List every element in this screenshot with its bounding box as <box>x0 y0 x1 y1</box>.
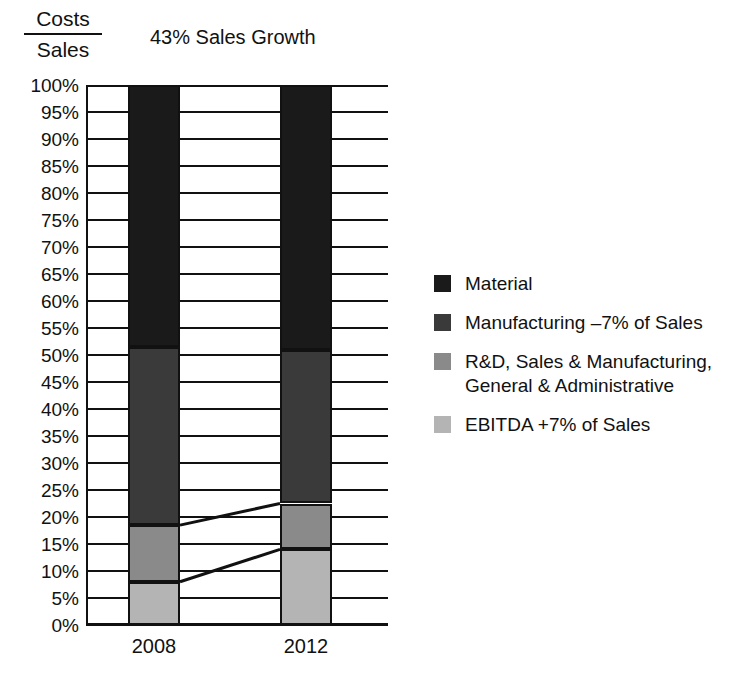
legend: MaterialManufacturing –7% of SalesR&D, S… <box>434 272 730 452</box>
plot-area: 100%95%90%85%80%75%70%65%60%55%50%45%40%… <box>86 85 388 625</box>
y-axis-tick-label: 85% <box>41 157 79 176</box>
legend-swatch-material <box>434 275 451 292</box>
y-axis-tick-label: 50% <box>41 346 79 365</box>
y-axis-tick-label: 70% <box>41 238 79 257</box>
bar-segment-ebitda <box>128 582 180 625</box>
y-axis-tick-label: 30% <box>41 454 79 473</box>
bar-segment-material <box>128 85 180 347</box>
legend-row: Manufacturing –7% of Sales <box>434 311 730 335</box>
y-axis-tick-label: 55% <box>41 319 79 338</box>
x-axis-label-2008: 2008 <box>128 635 180 658</box>
bar-2008: 2008 <box>128 85 180 625</box>
y-axis-tick-label: 60% <box>41 292 79 311</box>
y-axis-tick-label: 40% <box>41 400 79 419</box>
bar-segment-manufacturing <box>128 347 180 525</box>
legend-row: R&D, Sales & Manufacturing, General & Ad… <box>434 350 730 398</box>
stacked-bar-chart: Costs Sales 43% Sales Growth 100%95%90%8… <box>0 0 736 679</box>
y-axis-tick-label: 0% <box>52 616 79 635</box>
y-axis-caption-numerator: Costs <box>24 6 102 32</box>
y-axis-caption-rule <box>24 33 102 35</box>
legend-swatch-manufacturing <box>434 314 451 331</box>
legend-label: EBITDA +7% of Sales <box>465 413 650 437</box>
chart-title: 43% Sales Growth <box>150 26 316 49</box>
y-axis-tick-label: 5% <box>52 589 79 608</box>
y-axis-caption: Costs Sales <box>24 6 102 62</box>
x-axis-label-2012: 2012 <box>280 635 332 658</box>
y-axis-tick-label: 65% <box>41 265 79 284</box>
y-axis-tick-label: 90% <box>41 130 79 149</box>
y-axis-tick-label: 100% <box>30 76 79 95</box>
legend-row: Material <box>434 272 730 296</box>
legend-row: EBITDA +7% of Sales <box>434 413 730 437</box>
y-axis-tick-label: 35% <box>41 427 79 446</box>
y-axis-tick-label: 20% <box>41 508 79 527</box>
y-axis-tick-label: 15% <box>41 535 79 554</box>
bar-segment-rd <box>128 525 180 582</box>
y-axis-caption-denominator: Sales <box>24 37 102 62</box>
y-axis-tick-label: 75% <box>41 211 79 230</box>
legend-swatch-ebitda <box>434 416 451 433</box>
y-axis-tick-label: 80% <box>41 184 79 203</box>
legend-label: R&D, Sales & Manufacturing, General & Ad… <box>465 350 730 398</box>
bar-2012: 2012 <box>280 85 332 625</box>
y-axis-tick-label: 25% <box>41 481 79 500</box>
legend-label: Manufacturing –7% of Sales <box>465 311 703 335</box>
y-axis-tick-label: 10% <box>41 562 79 581</box>
y-axis-tick-label: 95% <box>41 103 79 122</box>
bar-segment-rd <box>280 504 332 550</box>
bar-segment-manufacturing <box>280 350 332 504</box>
y-axis-tick-label: 45% <box>41 373 79 392</box>
legend-label: Material <box>465 272 533 296</box>
bar-segment-material <box>280 85 332 350</box>
bar-segment-ebitda <box>280 549 332 625</box>
legend-swatch-rd <box>434 353 451 370</box>
